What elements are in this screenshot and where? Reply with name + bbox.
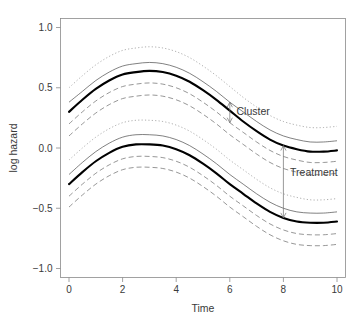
- y-tick-label: 1.0: [39, 22, 53, 33]
- log-hazard-chart: 0246810 1.00.50.0−0.5−1.0 ClusterTreatme…: [0, 0, 362, 327]
- x-tick-label: 0: [66, 284, 72, 295]
- y-tick-label: −0.5: [33, 203, 53, 214]
- y-tick-label: 0.5: [39, 82, 53, 93]
- x-tick-label: 4: [173, 284, 179, 295]
- x-tick-label: 8: [281, 284, 287, 295]
- cluster-annotation-label: Cluster: [237, 105, 271, 117]
- x-axis-title: Time: [192, 302, 215, 314]
- figure-container: 0246810 1.00.50.0−0.5−1.0 ClusterTreatme…: [0, 0, 362, 327]
- y-tick-label: 0.0: [39, 143, 53, 154]
- y-axis-title: log hazard: [7, 123, 19, 172]
- treatment-annotation-label: Treatment: [290, 166, 338, 178]
- x-tick-label: 6: [227, 284, 233, 295]
- plot-background: [0, 0, 362, 327]
- x-tick-label: 10: [331, 284, 343, 295]
- y-tick-label: −1.0: [33, 263, 53, 274]
- x-tick-label: 2: [120, 284, 126, 295]
